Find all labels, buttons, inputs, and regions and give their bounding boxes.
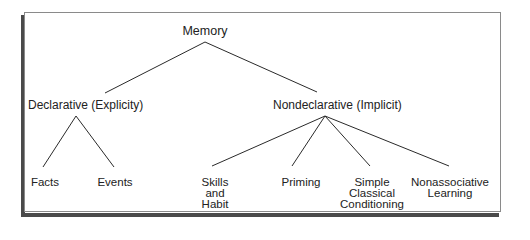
node-events: Events xyxy=(97,177,132,188)
node-nonassoc-line-2: Learning xyxy=(411,188,489,199)
node-simple-line-3: Conditioning xyxy=(340,199,404,210)
node-skills-line-3: Habit xyxy=(202,199,229,210)
node-simple-classical-conditioning: Simple Classical Conditioning xyxy=(340,177,404,210)
edge-nondeclarative-nonassociative xyxy=(325,116,449,166)
edge-declarative-facts xyxy=(43,116,76,167)
edge-nondeclarative-simple-classical xyxy=(325,116,370,166)
node-memory: Memory xyxy=(182,26,227,37)
node-nondeclarative: Nondeclarative (Implicit) xyxy=(273,100,402,111)
edge-declarative-events xyxy=(76,116,114,167)
node-facts: Facts xyxy=(31,177,59,188)
node-nonassociative-learning: Nonassociative Learning xyxy=(411,177,489,199)
node-skills-and-habit: Skills and Habit xyxy=(202,177,229,210)
node-priming: Priming xyxy=(282,177,321,188)
edge-memory-nondeclarative xyxy=(205,42,317,92)
node-declarative: Declarative (Explicity) xyxy=(28,100,143,111)
edge-memory-declarative xyxy=(105,42,205,93)
